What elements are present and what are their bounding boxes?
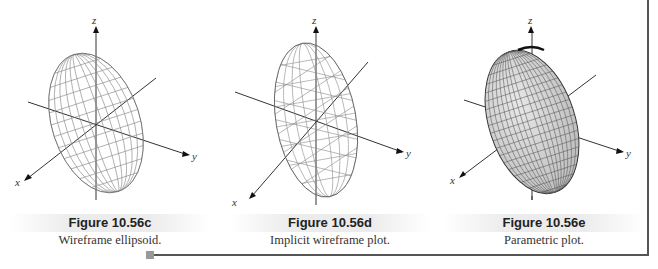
parametric-plot: z y x — [440, 0, 650, 210]
y-arrow-icon — [616, 148, 624, 154]
z-arrow-icon — [313, 26, 319, 33]
z-axis-label: z — [527, 14, 533, 26]
x-axis-label: x — [231, 196, 237, 208]
x-arrow-icon — [24, 174, 32, 181]
implicit-wireframe-plot: z y x — [220, 0, 440, 210]
y-axis-label: y — [625, 147, 631, 159]
figure-title: Figure 10.56c — [10, 214, 210, 232]
x-axis-label: x — [14, 176, 20, 188]
figure-caption: Implicit wireframe plot. — [230, 233, 430, 248]
z-axis-label: z — [311, 14, 317, 26]
figure-caption: Parametric plot. — [444, 233, 644, 248]
figure-panel-e: z y x Figure 10.56e Parametric plot. — [440, 0, 658, 269]
figure-panel-c: z y x Figure 10.56c Wireframe ellipsoid. — [0, 0, 220, 269]
figure-panel-d: z y x Figure 10.56d Implicit wireframe p… — [220, 0, 440, 269]
figure-title: Figure 10.56e — [444, 214, 644, 232]
x-arrow-icon — [459, 171, 466, 178]
pole-cap — [518, 47, 544, 50]
y-arrow-icon — [396, 148, 404, 154]
z-axis-label: z — [91, 14, 97, 26]
figure-title: Figure 10.56d — [230, 214, 430, 232]
wireframe-ellipsoid-plot: z y x — [0, 0, 220, 210]
figure-caption: Wireframe ellipsoid. — [10, 233, 210, 248]
z-arrow-icon — [93, 26, 99, 33]
y-arrow-icon — [182, 151, 190, 157]
y-axis-label: y — [405, 147, 411, 159]
y-axis-label: y — [191, 150, 197, 162]
z-arrow-icon — [528, 26, 534, 33]
x-axis-label: x — [449, 174, 455, 186]
